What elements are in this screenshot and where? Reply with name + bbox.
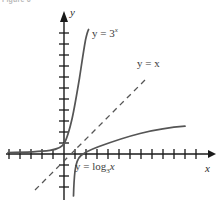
logarithm-label-prefix: y = log (75, 160, 106, 172)
identity-line-label: y = x (137, 57, 160, 69)
y-axis-label: y (70, 6, 75, 18)
x-axis-label: x (205, 162, 210, 174)
x-axis-arrowhead (208, 150, 216, 158)
y-axis-arrowhead (60, 11, 68, 22)
exponential-curve (8, 30, 89, 153)
exponential-label-exponent: x (115, 26, 118, 34)
identity-line-curve (35, 77, 148, 190)
exponential-curve-label: y = 3x (92, 27, 118, 39)
figure-container: Figure 6 (0, 0, 221, 209)
logarithm-label-suffix: x (110, 160, 115, 172)
logarithm-curve-label: y = log3x (75, 160, 115, 172)
exponential-label-text: y = 3 (92, 27, 115, 39)
